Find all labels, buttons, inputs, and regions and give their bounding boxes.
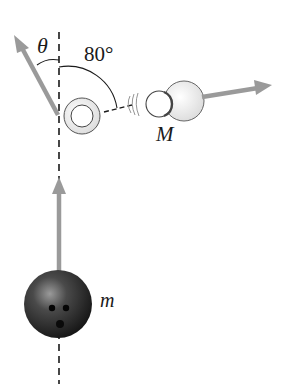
pin-velocity-arrow-left: [14, 35, 58, 115]
ball-velocity-arrow-up: [52, 177, 66, 272]
motion-lines-icon: [128, 93, 139, 116]
struck-pin: [64, 98, 100, 134]
pin-M-velocity-arrow: [202, 80, 272, 97]
pin-M: [146, 81, 204, 121]
bowling-ball: [24, 270, 92, 338]
angle-arc-theta: [37, 59, 59, 65]
pin-mass-label: M: [156, 122, 174, 147]
pin-connector-line: [104, 105, 132, 112]
ball-mass-label: m: [100, 289, 114, 312]
theta-label: θ: [37, 33, 48, 59]
angle-80-label: 80°: [84, 42, 113, 67]
